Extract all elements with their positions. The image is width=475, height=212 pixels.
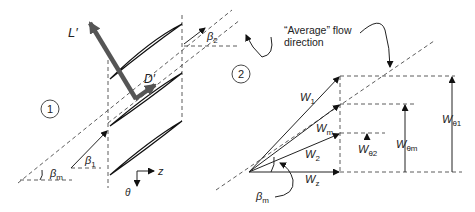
mean-flow-line-lower: [18, 10, 232, 183]
drag-force-arrow: [135, 85, 155, 99]
wm-label: Wm: [316, 122, 333, 137]
annotation-line-1: “Average” flow: [284, 24, 352, 36]
beta-m-arc: [40, 170, 42, 180]
lift-label: L′: [68, 25, 78, 40]
callout-arrow-right: [360, 23, 390, 67]
w2-label: W2: [305, 148, 320, 163]
blade-bottom: [110, 121, 182, 175]
beta-m-callout: [275, 163, 293, 197]
w2-vector: [249, 134, 339, 172]
z-axis-label: z: [157, 165, 164, 177]
wm-vector: [249, 105, 339, 172]
w-theta-m-label: Wθm: [396, 138, 418, 153]
w-theta-2-label: Wθ2: [358, 143, 378, 158]
station-2-label: 2: [238, 68, 244, 80]
cascade-diagram: L′ D′ 1 β1 βm β2 z θ “Average” flow di: [0, 0, 475, 212]
beta-1-label: β1: [84, 154, 96, 169]
beta-2-label: β2: [206, 30, 218, 45]
outlet-flow-arrow: [184, 28, 205, 44]
w-theta-1-label: Wθ1: [442, 113, 462, 128]
beta-m-arc-right: [271, 157, 274, 172]
station-1-label: 1: [47, 103, 53, 115]
callout-arrow-left: [246, 35, 272, 57]
w1-label: W1: [300, 91, 315, 106]
blade-cascade: L′ D′ 1 β1 βm β2 z θ: [18, 10, 240, 198]
wz-label: Wz: [305, 173, 319, 188]
drag-label: D′: [144, 72, 156, 86]
annotation-line-2: direction: [284, 36, 324, 48]
beta-m-right-label: βm: [255, 190, 269, 205]
theta-axis-label: θ: [125, 187, 131, 198]
velocity-triangle: “Average” flow direction 2 W1 Wm W2 Wz W…: [216, 23, 462, 205]
mean-flow-line-upper: [108, 20, 240, 123]
